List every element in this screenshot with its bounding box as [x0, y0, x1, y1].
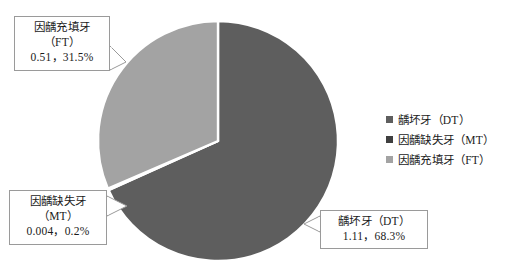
legend-swatch-dt-icon	[386, 116, 393, 123]
legend-label-dt: 龋坏牙（DT）	[398, 111, 470, 127]
callout-ft-line1: 因龋充填牙	[20, 20, 104, 35]
legend-label-mt: 因龋缺失牙（MT）	[398, 131, 494, 147]
callout-dt: 龋坏牙（DT） 1.11，68.3%	[320, 210, 428, 249]
callout-dt-line1: 龋坏牙（DT）	[326, 214, 422, 229]
legend-label-ft: 因龋充填牙（FT）	[398, 151, 490, 167]
callout-ft-line2: （FT）	[20, 35, 104, 50]
callout-ft: 因龋充填牙 （FT） 0.51，31.5%	[14, 16, 110, 71]
callout-mt-value: 0.004，0.2%	[15, 224, 101, 239]
legend-item-mt: 因龋缺失牙（MT）	[386, 130, 494, 148]
legend-swatch-mt-icon	[386, 136, 393, 143]
callout-mt-line1: 因龋缺失牙	[15, 194, 101, 209]
legend-item-ft: 因龋充填牙（FT）	[386, 150, 494, 168]
legend-swatch-ft-icon	[386, 156, 393, 163]
chart-legend: 龋坏牙（DT） 因龋缺失牙（MT） 因龋充填牙（FT）	[386, 110, 494, 170]
callout-ft-value: 0.51，31.5%	[20, 50, 104, 65]
callout-mt: 因龋缺失牙 （MT） 0.004，0.2%	[9, 190, 107, 245]
callout-dt-value: 1.11，68.3%	[326, 229, 422, 244]
legend-item-dt: 龋坏牙（DT）	[386, 110, 494, 128]
callout-mt-line2: （MT）	[15, 209, 101, 224]
pie-chart-figure: 因龋充填牙 （FT） 0.51，31.5% 因龋缺失牙 （MT） 0.004，0…	[0, 0, 506, 277]
pie-slices-group	[98, 21, 338, 261]
